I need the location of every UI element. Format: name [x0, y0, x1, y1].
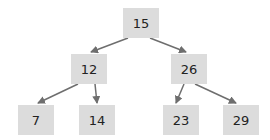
- tree-node-29: 29: [223, 105, 259, 135]
- tree-node-14: 14: [79, 105, 115, 135]
- edge-12-7: [38, 84, 78, 103]
- tree-node-7: 7: [18, 105, 54, 135]
- tree-node-23: 23: [163, 105, 199, 135]
- edge-26-23: [176, 84, 184, 103]
- edge-15-26: [150, 38, 186, 52]
- tree-node-26: 26: [171, 54, 207, 84]
- tree-node-15: 15: [123, 8, 159, 38]
- tree-node-12: 12: [71, 54, 107, 84]
- edge-26-29: [195, 84, 236, 103]
- edge-12-14: [95, 84, 97, 103]
- edge-15-12: [91, 38, 128, 52]
